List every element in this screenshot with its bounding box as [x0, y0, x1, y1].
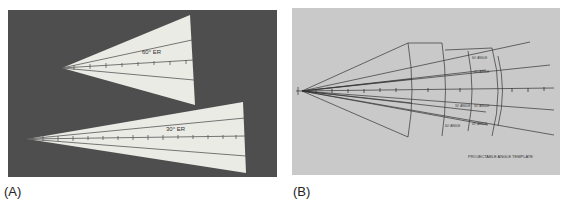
- gauge-60-caption: 60° ER: [142, 49, 162, 55]
- gauge-30-caption: 30° ER: [166, 126, 186, 132]
- panel-b-label: (B): [293, 184, 310, 199]
- svg-text:60° ANGLE: 60° ANGLE: [472, 56, 487, 60]
- panel-a: 60° ER 30°: [8, 10, 277, 177]
- panel-b: 60° ANGLE 45° ANGLE 30° ANGLE 30° ANGLE …: [292, 8, 560, 175]
- gauge-30-er: 30° ER: [27, 102, 246, 173]
- gauge-60-er: 60° ER: [62, 15, 195, 105]
- svg-text:60° ANGLE: 60° ANGLE: [445, 124, 460, 128]
- svg-text:30° ANGLE: 30° ANGLE: [455, 104, 470, 108]
- template-rays: [296, 42, 554, 137]
- svg-text:30° ANGLE: 30° ANGLE: [474, 104, 489, 108]
- axis-ticks: [316, 87, 544, 93]
- svg-text:45° ANGLE: 45° ANGLE: [472, 122, 487, 126]
- panel-a-illustration: 60° ER 30°: [8, 10, 277, 177]
- panel-a-label: (A): [4, 184, 21, 199]
- template-footer-caption: PROJECTABLE ANGLE TEMPLATE: [468, 154, 533, 159]
- panel-b-illustration: 60° ANGLE 45° ANGLE 30° ANGLE 30° ANGLE …: [292, 8, 560, 175]
- svg-text:45° ANGLE: 45° ANGLE: [474, 70, 489, 74]
